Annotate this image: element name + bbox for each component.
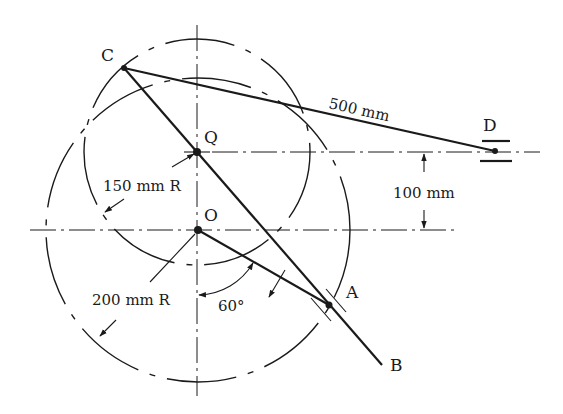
label-q: Q (204, 127, 218, 147)
crank-oa (198, 230, 329, 305)
link-cd (124, 68, 495, 151)
angle-60 (199, 263, 285, 297)
joint-d (492, 148, 498, 154)
label-b: B (390, 355, 403, 375)
label-angle: 60° (218, 297, 245, 315)
q-radius-leader (172, 154, 194, 167)
label-o: O (204, 205, 218, 225)
joint-q (193, 148, 201, 156)
circles (46, 39, 350, 382)
label-a: A (345, 282, 359, 302)
angle-arc (199, 263, 253, 295)
joint-c (121, 65, 127, 71)
label-offset: 100 mm (393, 184, 455, 202)
joint-o (194, 226, 202, 234)
o-radius-arrow-to-circle (100, 320, 116, 336)
label-c: C (101, 45, 114, 65)
q-radius-arrow-to-circle (105, 199, 124, 212)
joint-a (326, 302, 333, 309)
label-q-radius: 150 mm R (103, 177, 182, 195)
links (124, 68, 495, 365)
label-d: D (483, 115, 497, 135)
label-o-radius: 200 mm R (92, 291, 171, 309)
mechanism-diagram: C Q O A B D 500 mm 100 mm 150 mm R 200 m… (0, 0, 563, 414)
